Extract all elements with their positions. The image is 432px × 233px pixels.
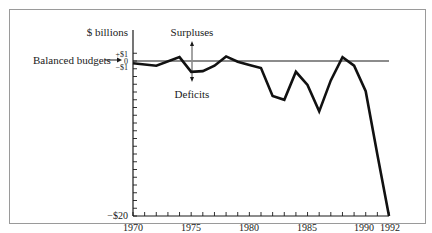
up-arrow-icon	[190, 41, 194, 60]
budget-balance-chart: $ billions +$1 0 −$1 −$20 Balanced budge…	[0, 0, 432, 233]
balanced-budgets-label: Balanced budgets	[33, 54, 111, 66]
x-tick-label-1992: 1992	[380, 222, 400, 233]
x-tick-label-1985: 1985	[297, 222, 317, 233]
x-tick-label-1975: 1975	[181, 222, 201, 233]
y-tick-label-minus1: −$1	[115, 63, 128, 72]
x-tick-label-1980: 1980	[239, 222, 259, 233]
surpluses-label: Surpluses	[171, 26, 214, 38]
x-tick-label-1990: 1990	[354, 222, 374, 233]
y-axis-ticks	[133, 53, 137, 216]
deficits-label: Deficits	[175, 88, 210, 100]
x-tick-label-1970: 1970	[123, 222, 143, 233]
y-tick-label-minus20: −$20	[107, 210, 128, 221]
y-axis-label: $ billions	[87, 26, 128, 38]
budget-balance-line	[133, 56, 389, 216]
